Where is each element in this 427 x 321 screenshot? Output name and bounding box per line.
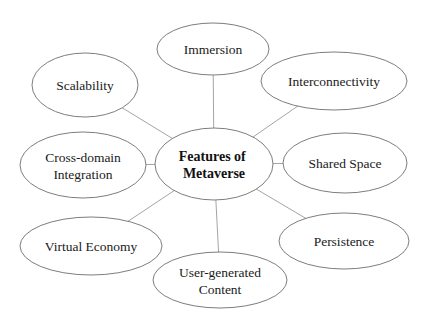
node-label-interconnectivity: Interconnectivity xyxy=(288,74,380,89)
node-label-line: Interconnectivity xyxy=(288,74,380,89)
node-label-line: Scalability xyxy=(56,78,114,93)
node-cross-domain-integration: Cross-domainIntegration xyxy=(20,132,146,198)
node-label-line: Cross-domain xyxy=(45,149,121,164)
node-label-line: Shared Space xyxy=(308,156,381,171)
metaverse-features-diagram: ImmersionInterconnectivityShared SpacePe… xyxy=(0,0,427,321)
node-label-line: Content xyxy=(199,281,242,296)
node-label-line: Integration xyxy=(53,166,112,181)
node-persistence: Persistence xyxy=(279,213,409,269)
node-label-persistence: Persistence xyxy=(314,234,375,249)
center-label-line-1: Features of xyxy=(179,148,246,163)
node-label-line: Persistence xyxy=(314,234,375,249)
node-label-virtual-economy: Virtual Economy xyxy=(45,239,138,254)
node-virtual-economy: Virtual Economy xyxy=(20,217,162,275)
node-scalability: Scalability xyxy=(32,53,138,117)
center-node: Features of Metaverse xyxy=(155,128,273,200)
node-interconnectivity: Interconnectivity xyxy=(261,52,407,110)
node-label-shared-space: Shared Space xyxy=(308,156,381,171)
node-label-scalability: Scalability xyxy=(56,78,114,93)
node-shared-space: Shared Space xyxy=(283,133,407,193)
node-label-immersion: Immersion xyxy=(184,42,243,57)
node-ellipse-cross-domain-integration xyxy=(20,132,146,198)
center-label-line-2: Metaverse xyxy=(183,165,245,180)
node-ellipse-user-generated-content xyxy=(153,252,287,308)
node-immersion: Immersion xyxy=(157,23,269,75)
node-label-line: Virtual Economy xyxy=(45,239,138,254)
node-user-generated-content: User-generatedContent xyxy=(153,252,287,308)
center-node-ellipse xyxy=(155,128,273,200)
node-label-line: User-generated xyxy=(179,264,261,279)
node-label-line: Immersion xyxy=(184,42,243,57)
